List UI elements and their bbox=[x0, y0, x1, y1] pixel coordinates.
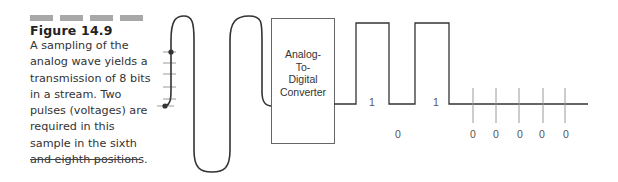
converter-label: Analog- To- Digital Converter bbox=[272, 48, 334, 98]
converter-label-line: Converter bbox=[272, 86, 334, 99]
bit-label: 0 bbox=[395, 128, 401, 140]
sample-point-icon bbox=[168, 49, 173, 54]
bit-label: 0 bbox=[539, 128, 545, 140]
converter-label-line: To- bbox=[272, 61, 334, 74]
analog-wave bbox=[166, 16, 272, 172]
bit-label: 1 bbox=[433, 96, 439, 108]
converter-label-line: Analog- bbox=[272, 48, 334, 61]
bit-label: 1 bbox=[369, 96, 375, 108]
bit-label: 0 bbox=[470, 128, 476, 140]
converter-label-line: Digital bbox=[272, 73, 334, 86]
bit-label: 0 bbox=[517, 128, 523, 140]
sample-ticks bbox=[157, 52, 176, 106]
bit-label: 0 bbox=[563, 128, 569, 140]
bit-label: 0 bbox=[493, 128, 499, 140]
sample-point-icon bbox=[162, 103, 167, 108]
bit-dividers bbox=[473, 88, 565, 123]
digital-signal bbox=[334, 23, 588, 104]
